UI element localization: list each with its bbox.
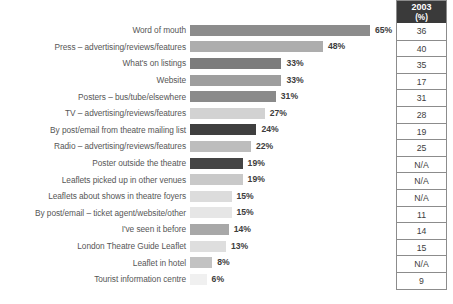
chart-row: TV – advertising/reviews/features27% (0, 105, 392, 122)
bar-value-label: 27% (270, 108, 287, 119)
bar-category-label: Tourist information centre (0, 274, 190, 284)
bar-category-label: Leaflet in hotel (0, 258, 190, 268)
bar-value-label: 8% (217, 257, 229, 268)
bar-track: 15% (190, 191, 392, 202)
bar (190, 241, 226, 252)
bar (190, 108, 265, 119)
bar-category-label: Radio – advertising/reviews/features (0, 141, 190, 151)
bar-track: 65% (190, 25, 392, 36)
bar (190, 41, 323, 52)
bar (190, 224, 229, 235)
bar (190, 191, 232, 202)
bar (190, 141, 251, 152)
bar-category-label: Leaflets about shows in theatre foyers (0, 191, 190, 201)
side-table-cell: 35 (397, 56, 446, 73)
chart-row: By post/email – ticket agent/website/oth… (0, 205, 392, 222)
chart-row: London Theatre Guide Leaflet13% (0, 238, 392, 255)
bar-value-label: 33% (286, 75, 303, 86)
side-table-cell: 28 (397, 106, 446, 123)
horizontal-bar-chart: Word of mouth65%Press – advertising/revi… (0, 0, 453, 304)
bar-track: 19% (190, 158, 392, 169)
bar-track: 15% (190, 207, 392, 218)
bar-category-label: Word of mouth (0, 25, 190, 35)
bar-value-label: 13% (231, 241, 248, 252)
bar-category-label: Website (0, 75, 190, 85)
side-table-cell: N/A (397, 156, 446, 173)
bar-category-label: Leaflets picked up in other venues (0, 175, 190, 185)
chart-row: Poster outside the theatre19% (0, 155, 392, 172)
chart-row: Website33% (0, 72, 392, 89)
side-table-header: 2003 (%) (397, 1, 446, 23)
side-table-header-year: 2003 (397, 2, 446, 13)
chart-row: Leaflets picked up in other venues19% (0, 171, 392, 188)
chart-row: By post/email from theatre mailing list2… (0, 122, 392, 139)
bar (190, 158, 243, 169)
chart-row: Word of mouth65% (0, 22, 392, 39)
bar-value-label: 33% (286, 58, 303, 69)
bar-value-label: 6% (212, 274, 224, 285)
bar-category-label: TV – advertising/reviews/features (0, 108, 190, 118)
side-table-cell: 9 (397, 272, 446, 289)
bar-track: 27% (190, 108, 392, 119)
bar-category-label: By post/email – ticket agent/website/oth… (0, 208, 190, 218)
bar-category-label: What's on listings (0, 58, 190, 68)
bar-track: 33% (190, 75, 392, 86)
bar-category-label: By post/email from theatre mailing list (0, 125, 190, 135)
bar (190, 174, 243, 185)
bar-category-label: Poster outside the theatre (0, 158, 190, 168)
bar-track: 22% (190, 141, 392, 152)
bar (190, 124, 256, 135)
side-table-cell: 17 (397, 73, 446, 90)
chart-row: I've seen it before14% (0, 221, 392, 238)
side-table-header-unit: (%) (397, 13, 446, 24)
bar-category-label: I've seen it before (0, 224, 190, 234)
bar (190, 91, 276, 102)
bar-value-label: 22% (256, 141, 273, 152)
side-table-cell: 19 (397, 123, 446, 140)
bar-value-label: 15% (237, 207, 254, 218)
side-table-cell: N/A (397, 189, 446, 206)
bar-track: 14% (190, 224, 392, 235)
bar-category-label: London Theatre Guide Leaflet (0, 241, 190, 251)
bar-value-label: 48% (328, 41, 345, 52)
bar-track: 8% (190, 257, 392, 268)
chart-row: Tourist information centre6% (0, 271, 392, 288)
chart-row: Radio – advertising/reviews/features22% (0, 138, 392, 155)
bar (190, 257, 212, 268)
bar (190, 58, 281, 69)
side-table-2003: 2003 (%) 3640351731281925N/AN/AN/A111415… (396, 0, 447, 290)
side-table-cell: 14 (397, 222, 446, 239)
side-table-cell: N/A (397, 255, 446, 272)
bar-track: 31% (190, 91, 392, 102)
bar-value-label: 65% (375, 25, 392, 36)
bar (190, 75, 281, 86)
side-table-cell: 31 (397, 89, 446, 106)
side-table-cell: 15 (397, 239, 446, 256)
bar (190, 274, 207, 285)
bar-value-label: 31% (281, 91, 298, 102)
bar-category-label: Posters – bus/tube/elsewhere (0, 92, 190, 102)
chart-row: Press – advertising/reviews/features48% (0, 39, 392, 56)
side-table-cell: 11 (397, 206, 446, 223)
side-table-cell: 40 (397, 40, 446, 57)
bar-track: 6% (190, 274, 392, 285)
bar-value-label: 24% (261, 124, 278, 135)
bar-value-label: 15% (237, 191, 254, 202)
chart-row: Posters – bus/tube/elsewhere31% (0, 88, 392, 105)
bar (190, 25, 370, 36)
bar (190, 207, 232, 218)
side-table-body: 3640351731281925N/AN/AN/A111415N/A9 (397, 23, 446, 289)
bar-track: 13% (190, 241, 392, 252)
bar-track: 24% (190, 124, 392, 135)
chart-rows: Word of mouth65%Press – advertising/revi… (0, 22, 392, 288)
chart-row: Leaflet in hotel8% (0, 254, 392, 271)
bar-value-label: 19% (248, 158, 265, 169)
side-table-cell: 25 (397, 139, 446, 156)
chart-row: Leaflets about shows in theatre foyers15… (0, 188, 392, 205)
chart-row: What's on listings33% (0, 55, 392, 72)
side-table-cell: N/A (397, 172, 446, 189)
bar-track: 48% (190, 41, 392, 52)
bar-track: 33% (190, 58, 392, 69)
bar-track: 19% (190, 174, 392, 185)
side-table-cell: 36 (397, 23, 446, 40)
